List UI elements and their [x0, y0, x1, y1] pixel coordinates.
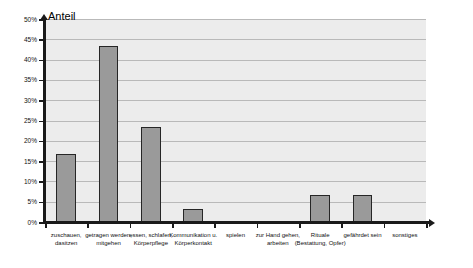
- bar: [141, 127, 160, 222]
- y-tick-label: 40%: [0, 56, 37, 63]
- y-tick-mark: [39, 161, 44, 163]
- y-tick-mark: [39, 80, 44, 82]
- x-axis-category-label: sonstiges: [379, 231, 431, 239]
- x-tick-mark: [172, 223, 174, 228]
- y-tick-mark: [39, 141, 44, 143]
- y-tick-label: 35%: [0, 76, 37, 83]
- y-tick-mark: [39, 202, 44, 204]
- x-axis-arrow-icon: [429, 219, 435, 227]
- y-tick-mark: [39, 19, 44, 21]
- y-tick-label: 45%: [0, 36, 37, 43]
- x-tick-mark: [45, 223, 47, 228]
- y-tick-mark: [39, 222, 44, 224]
- bar-chart: 0%5%10%15%20%25%30%35%40%45%50% zuschaue…: [0, 0, 473, 268]
- y-tick-mark: [39, 39, 44, 41]
- plot-area: [45, 19, 426, 222]
- y-tick-label: 30%: [0, 97, 37, 104]
- x-tick-mark: [426, 223, 428, 228]
- x-tick-mark: [87, 223, 89, 228]
- chart-title: Anteil: [48, 10, 76, 22]
- bar: [56, 154, 75, 222]
- y-tick-mark: [39, 121, 44, 123]
- x-tick-mark: [299, 223, 301, 228]
- bar: [99, 46, 118, 222]
- x-axis-line: [43, 221, 431, 224]
- bar: [183, 209, 202, 222]
- y-tick-mark: [39, 100, 44, 102]
- y-tick-label: 5%: [0, 198, 37, 205]
- x-tick-mark: [341, 223, 343, 228]
- bar: [310, 195, 329, 222]
- y-tick-mark: [39, 181, 44, 183]
- x-tick-mark: [130, 223, 132, 228]
- y-tick-label: 25%: [0, 117, 37, 124]
- x-tick-mark: [257, 223, 259, 228]
- y-tick-label: 50%: [0, 16, 37, 23]
- y-tick-label: 10%: [0, 178, 37, 185]
- x-tick-mark: [214, 223, 216, 228]
- bar: [353, 195, 372, 222]
- y-tick-label: 20%: [0, 137, 37, 144]
- y-tick-mark: [39, 60, 44, 62]
- y-tick-label: 0%: [0, 219, 37, 226]
- x-tick-mark: [384, 223, 386, 228]
- y-tick-label: 15%: [0, 158, 37, 165]
- bars-container: [45, 19, 426, 222]
